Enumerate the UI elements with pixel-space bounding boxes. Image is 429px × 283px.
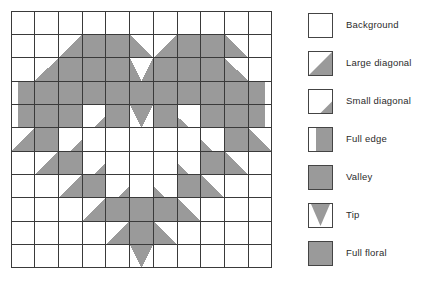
legend-item-background: Background	[308, 6, 429, 44]
swatch-tip-icon	[308, 203, 333, 228]
swatch-large-diagonal-icon	[308, 51, 333, 76]
legend-item-tip: Tip	[308, 196, 429, 234]
legend-label-full-edge: Full edge	[346, 134, 387, 144]
legend-label-tip: Tip	[346, 210, 359, 220]
quilt-grid-container	[11, 11, 272, 268]
legend-item-valley: Valley	[308, 158, 429, 196]
legend-label-large-diagonal: Large diagonal	[346, 58, 412, 68]
legend-label-background: Background	[346, 20, 399, 30]
swatch-valley-icon	[308, 165, 333, 190]
legend-label-valley: Valley	[346, 172, 372, 182]
swatch-full-floral-icon	[308, 241, 333, 266]
legend-item-large-diagonal: Large diagonal	[308, 44, 429, 82]
legend-item-small-diagonal: Small diagonal	[308, 82, 429, 120]
quilt-figure: Background Large diagonal Small diagonal	[0, 0, 429, 283]
quilt-grid-svg	[11, 11, 272, 268]
legend-label-full-floral: Full floral	[346, 248, 387, 258]
swatch-background-icon	[308, 13, 333, 38]
legend: Background Large diagonal Small diagonal	[308, 6, 429, 272]
legend-label-small-diagonal: Small diagonal	[346, 96, 411, 106]
legend-item-full-edge: Full edge	[308, 120, 429, 158]
swatch-full-edge-icon	[308, 127, 333, 152]
legend-item-full-floral: Full floral	[308, 234, 429, 272]
swatch-small-diagonal-icon	[308, 89, 333, 114]
